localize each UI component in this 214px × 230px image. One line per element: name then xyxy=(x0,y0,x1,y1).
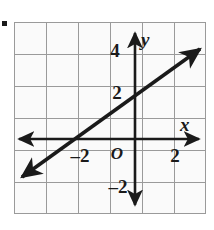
origin-label: O xyxy=(111,144,123,163)
y-tick-label-4: 4 xyxy=(110,40,120,61)
graph-svg: y x 4 2 –2 –2 2 O xyxy=(0,0,214,230)
y-tick-label-2: 2 xyxy=(112,82,122,103)
x-tick-label-2: 2 xyxy=(170,145,180,166)
y-axis-label: y xyxy=(139,29,150,50)
coordinate-plane-figure: y x 4 2 –2 –2 2 O xyxy=(0,0,214,230)
y-tick-label-neg2: –2 xyxy=(108,176,128,197)
x-axis-label: x xyxy=(179,114,190,135)
x-tick-label-neg2: –2 xyxy=(70,145,90,166)
